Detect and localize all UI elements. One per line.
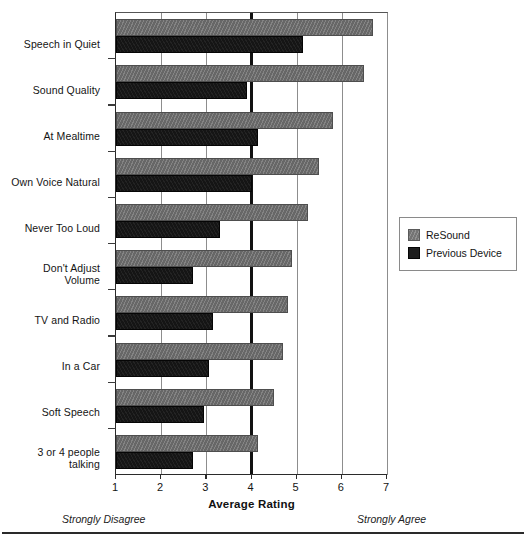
x-tick-6 (341, 474, 342, 479)
bar-resound (116, 389, 274, 406)
category-tick (108, 382, 116, 383)
category-label: Own Voice Natural (0, 177, 100, 189)
category-label: In a Car (0, 361, 100, 373)
bar-previous-device (116, 175, 252, 192)
bar-resound (116, 296, 288, 313)
category-axis-labels: Speech in Quiet Sound Quality At Mealtim… (0, 12, 108, 474)
bar-resound (116, 112, 333, 129)
category-label: Speech in Quiet (0, 39, 100, 51)
legend-label: Previous Device (426, 247, 502, 259)
x-axis-title: Average Rating (0, 498, 527, 510)
gray-swatch-icon (408, 229, 420, 241)
legend-label: ReSound (426, 229, 470, 241)
x-tick-7 (386, 474, 387, 479)
bar-previous-device (116, 267, 193, 284)
x-tick-label: 6 (329, 481, 353, 493)
plot-area (115, 12, 388, 475)
bar-previous-device (116, 82, 247, 99)
category-tick (108, 289, 116, 290)
category-label: 3 or 4 people talking (0, 446, 100, 470)
bar-resound (116, 19, 373, 36)
legend-item-resound[interactable]: ReSound (408, 226, 510, 244)
x-tick-3 (205, 474, 206, 479)
bar-resound (116, 343, 283, 360)
scale-anchor-high: Strongly Agree (357, 513, 426, 525)
category-label: Soft Speech (0, 407, 100, 419)
category-tick (108, 243, 116, 244)
page-divider (2, 532, 524, 534)
x-tick-2 (160, 474, 161, 479)
x-tick-label: 5 (284, 481, 308, 493)
category-label: TV and Radio (0, 315, 100, 327)
x-tick-label: 4 (239, 481, 263, 493)
bar-resound (116, 65, 364, 82)
x-tick-4 (251, 474, 252, 479)
category-tick (108, 335, 116, 336)
category-tick (108, 197, 116, 198)
x-tick-label: 2 (148, 481, 172, 493)
scale-anchor-low: Strongly Disagree (62, 513, 145, 525)
bar-resound (116, 435, 258, 452)
category-tick (108, 104, 116, 105)
bar-previous-device (116, 313, 213, 330)
gridline-7 (387, 13, 388, 475)
x-tick-label: 7 (374, 481, 398, 493)
bar-previous-device (116, 360, 209, 377)
bar-previous-device (116, 406, 204, 423)
legend: ReSound Previous Device (399, 217, 517, 271)
bar-chart: Speech in Quiet Sound Quality At Mealtim… (0, 0, 527, 543)
category-label: Sound Quality (0, 85, 100, 97)
category-tick (108, 58, 116, 59)
bar-previous-device (116, 221, 220, 238)
legend-item-previous-device[interactable]: Previous Device (408, 244, 510, 262)
category-label: At Mealtime (0, 131, 100, 143)
x-tick-5 (296, 474, 297, 479)
gridline-5 (297, 13, 298, 475)
x-tick-1 (115, 474, 116, 479)
category-label: Never Too Loud (0, 223, 100, 235)
bar-resound (116, 158, 319, 175)
bar-previous-device (116, 129, 258, 146)
category-tick (108, 151, 116, 152)
category-label: Don't Adjust Volume (0, 262, 100, 286)
category-tick (108, 428, 116, 429)
x-tick-label: 1 (103, 481, 127, 493)
gridline-6 (342, 13, 343, 475)
black-swatch-icon (408, 247, 420, 259)
bar-resound (116, 250, 292, 267)
gridline-4 (250, 13, 252, 475)
x-tick-label: 3 (193, 481, 217, 493)
bar-previous-device (116, 452, 193, 469)
bar-resound (116, 204, 308, 221)
bar-previous-device (116, 36, 303, 53)
